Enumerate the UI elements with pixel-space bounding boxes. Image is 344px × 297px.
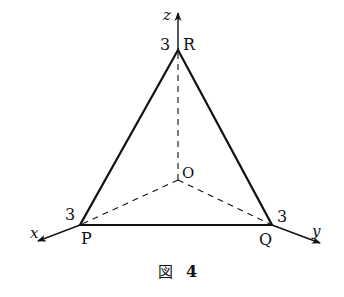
point-p-label: P — [81, 229, 92, 248]
point-q-label: Q — [259, 230, 272, 249]
q-intercept-label: 3 — [277, 207, 287, 226]
figure-caption-kanji: 図 — [158, 263, 173, 281]
origin-label: O — [182, 164, 194, 182]
dashed-y-segment — [178, 180, 270, 224]
triangle-pqr — [80, 50, 272, 225]
z-axis-label: z — [162, 6, 171, 24]
figure-caption-number: 4 — [186, 262, 197, 281]
y-axis-label: y — [311, 222, 321, 240]
figure-diagram: z 3 R O 3 P x 3 Q y 図 4 — [0, 0, 344, 297]
x-axis-label: x — [30, 224, 39, 242]
p-intercept-label: 3 — [65, 205, 75, 224]
x-axis — [38, 225, 80, 241]
dashed-x-segment — [82, 180, 178, 224]
point-r-label: R — [183, 35, 196, 54]
r-intercept-label: 3 — [160, 35, 170, 54]
